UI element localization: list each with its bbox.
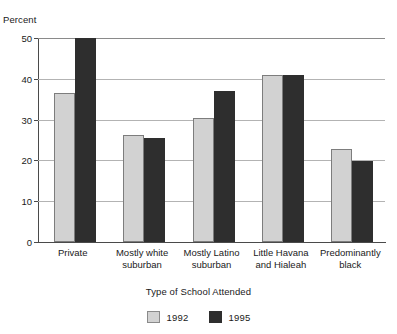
x-axis-category-labels: PrivateMostly white suburbanMostly Latin… bbox=[38, 247, 385, 277]
bar[interactable] bbox=[54, 93, 75, 242]
y-axis-tick-label: 10 bbox=[21, 196, 32, 207]
bar-group bbox=[193, 38, 235, 242]
y-axis-title: Percent bbox=[3, 14, 36, 25]
x-axis-line bbox=[38, 242, 386, 243]
bar[interactable] bbox=[352, 161, 373, 242]
bar-group bbox=[54, 38, 96, 242]
x-axis-title: Type of School Attended bbox=[0, 286, 397, 297]
legend-item[interactable]: 1995 bbox=[209, 311, 251, 323]
legend-label: 1992 bbox=[167, 312, 189, 323]
x-axis-category-label: Mostly white suburban bbox=[107, 247, 176, 270]
y-axis-tick-label: 50 bbox=[21, 33, 32, 44]
bar-chart: Percent 01020304050 PrivateMostly white … bbox=[0, 0, 397, 334]
y-axis-tick-label: 20 bbox=[21, 155, 32, 166]
bar[interactable] bbox=[193, 118, 214, 242]
bar-group bbox=[331, 38, 373, 242]
y-axis-tick-label: 40 bbox=[21, 73, 32, 84]
chart-legend: 19921995 bbox=[0, 311, 397, 323]
x-axis-category-label: Mostly Latino suburban bbox=[177, 247, 246, 270]
y-axis-tick-label: 30 bbox=[21, 114, 32, 125]
bars-layer bbox=[38, 38, 385, 242]
legend-label: 1995 bbox=[229, 312, 251, 323]
y-axis-tick bbox=[34, 242, 38, 243]
bar[interactable] bbox=[283, 75, 304, 242]
x-axis-category-label: Little Havana and Hialeah bbox=[246, 247, 315, 270]
x-axis-category-label: Predominantly black bbox=[316, 247, 385, 270]
bar[interactable] bbox=[75, 38, 96, 242]
legend-item[interactable]: 1992 bbox=[147, 311, 189, 323]
bar[interactable] bbox=[144, 138, 165, 242]
bar[interactable] bbox=[262, 75, 283, 242]
legend-swatch bbox=[147, 311, 160, 323]
x-axis-category-label: Private bbox=[38, 247, 107, 259]
y-axis-tick-label: 0 bbox=[27, 237, 32, 248]
bar[interactable] bbox=[214, 91, 235, 242]
bar-group bbox=[123, 38, 165, 242]
bar-group bbox=[262, 38, 304, 242]
bar[interactable] bbox=[123, 135, 144, 242]
bar[interactable] bbox=[331, 149, 352, 242]
legend-swatch bbox=[209, 311, 222, 323]
